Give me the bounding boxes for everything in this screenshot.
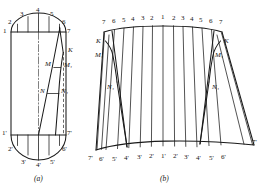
label-b-top-1: 1 <box>161 14 165 21</box>
caption-b: (b) <box>160 175 169 183</box>
label-b-bottom-2pR: 2' <box>173 153 178 160</box>
label-a-N: N <box>40 88 45 95</box>
label-a-bottom-4p: 4' <box>36 162 41 169</box>
label-b-top-5R: 5 <box>199 17 203 24</box>
dev-generatrix-4R <box>193 27 198 147</box>
label-b-bottom-7pL: 7' <box>88 155 93 162</box>
label-a-top-3: 3 <box>20 11 24 18</box>
label-a-top-1: 1 <box>3 28 7 35</box>
label-a-K: K <box>68 47 73 54</box>
label-b-top-7R: 7 <box>219 19 223 26</box>
figure-root: .o{fill:none;stroke:#1a1a1a;stroke-width… <box>0 0 261 192</box>
dev-generatrix-3R <box>183 26 186 146</box>
label-b-K-left: K <box>96 38 101 45</box>
development-bottom-edge <box>96 141 254 150</box>
label-b-top-6L: 6 <box>112 18 116 25</box>
label-b-bottom-6pR: 6' <box>221 154 226 161</box>
label-b-top-6R: 6 <box>209 18 213 25</box>
label-b-M1-right: M₁ <box>215 52 223 59</box>
label-b-top-7L: 7 <box>102 19 106 26</box>
label-b-bottom-6pL: 6' <box>99 156 104 163</box>
label-b-bottom-1p: 1' <box>161 153 166 160</box>
label-a-N1: N₁ <box>61 88 68 95</box>
dev-generatrix-2L <box>151 26 152 147</box>
label-b-N1-left: N₁ <box>107 84 114 91</box>
section-line-N1-bottom <box>56 95 59 135</box>
label-a-top-6: 6 <box>62 19 66 26</box>
label-b-top-4R: 4 <box>190 16 194 23</box>
label-a-top-2: 2 <box>8 19 12 26</box>
label-a-bottom-2p: 2' <box>8 146 13 153</box>
figure-a-group <box>11 13 66 160</box>
label-a-bottom-5p: 5' <box>50 159 55 166</box>
caption-a: (a) <box>34 175 43 183</box>
dev-side-line-right-7 <box>222 33 253 145</box>
left-dart-edge-b <box>112 31 127 147</box>
label-a-top-7: 7 <box>67 28 71 35</box>
label-b-N1-right: N₁ <box>212 84 219 91</box>
label-a-bottom-7p: 7' <box>67 130 72 137</box>
label-a-M1: M₁ <box>64 62 72 69</box>
label-b-bottom-5pL: 5' <box>112 156 117 163</box>
label-a-bottom-3p: 3' <box>21 159 26 166</box>
section-line-6-K <box>60 27 64 53</box>
label-b-top-2R: 2 <box>172 15 176 22</box>
label-a-M: M <box>45 61 51 68</box>
label-b-K-right: K <box>224 38 229 45</box>
development-right-edge <box>222 32 254 145</box>
label-b-bottom-5pR: 5' <box>209 155 214 162</box>
label-b-top-3R: 3 <box>181 15 185 22</box>
label-b-bottom-3pL: 3' <box>137 154 142 161</box>
label-b-top-5L: 5 <box>122 17 126 24</box>
label-a-top-4: 4 <box>36 7 40 14</box>
label-b-top-4L: 4 <box>131 16 135 23</box>
oblique-line-lower <box>39 66 53 135</box>
label-b-bottom-4pR: 4' <box>196 155 201 162</box>
label-a-bottom-1p: 1' <box>2 130 7 137</box>
label-b-bottom-4pL: 4' <box>124 155 129 162</box>
label-a-bottom-6p: 6' <box>62 146 67 153</box>
label-b-M1-left: M₁ <box>95 52 103 59</box>
dev-generatrix-4L <box>129 27 134 148</box>
label-b-bottom-2pL: 2' <box>149 153 154 160</box>
label-b-bottom-7pR: 7' <box>252 139 257 146</box>
figure-b-group <box>96 26 254 151</box>
label-b-top-2L: 2 <box>150 15 154 22</box>
label-a-top-5: 5 <box>50 11 54 18</box>
label-b-bottom-3pR: 3' <box>184 154 189 161</box>
label-b-top-3L: 3 <box>141 15 145 22</box>
dev-generatrix-3L <box>140 26 143 147</box>
oblique-line-upper <box>53 28 60 66</box>
dev-generatrix-2R <box>174 26 175 146</box>
